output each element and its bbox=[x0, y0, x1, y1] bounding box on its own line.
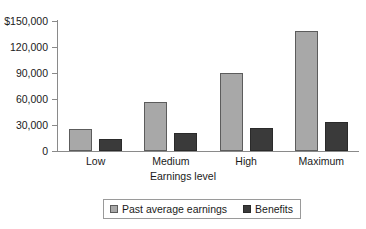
y-axis-tick bbox=[52, 151, 57, 152]
bar-low-benefits bbox=[99, 139, 122, 151]
bar-medium-benefits bbox=[174, 133, 197, 151]
legend-swatch-icon-past-average-earnings bbox=[110, 205, 118, 213]
x-axis-tick-label-high: High bbox=[209, 155, 284, 167]
y-axis-tick-label: 120,000 bbox=[0, 42, 48, 52]
bar-low-past-average-earnings bbox=[69, 129, 92, 151]
plot-area bbox=[58, 21, 359, 151]
bar-chart: 030,00060,00090,000120,000$150,000 LowMe… bbox=[0, 0, 366, 229]
legend-label-past-average-earnings: Past average earnings bbox=[122, 203, 227, 215]
y-axis-tick bbox=[52, 99, 57, 100]
bar-maximum-benefits bbox=[325, 122, 348, 151]
bar-group-low bbox=[58, 21, 133, 151]
y-axis-tick bbox=[52, 125, 57, 126]
chart-legend: Past average earnings Benefits bbox=[103, 199, 301, 219]
y-axis-tick-label: 60,000 bbox=[0, 94, 48, 104]
y-axis-tick-label: 0 bbox=[0, 146, 48, 156]
bar-high-past-average-earnings bbox=[220, 73, 243, 151]
y-axis-tick bbox=[52, 47, 57, 48]
y-axis-tick-label: 90,000 bbox=[0, 68, 48, 78]
x-axis-line bbox=[57, 151, 359, 152]
y-axis-tick-label: $150,000 bbox=[0, 16, 48, 26]
y-axis-tick bbox=[52, 73, 57, 74]
bar-high-benefits bbox=[250, 128, 273, 151]
x-axis-tick-label-medium: Medium bbox=[133, 155, 208, 167]
y-axis-tick-label: 30,000 bbox=[0, 120, 48, 130]
y-axis-tick bbox=[52, 21, 57, 22]
bar-maximum-past-average-earnings bbox=[295, 31, 318, 151]
bar-group-high bbox=[209, 21, 284, 151]
bar-group-maximum bbox=[284, 21, 359, 151]
legend-label-benefits: Benefits bbox=[255, 203, 293, 215]
legend-item-benefits: Benefits bbox=[243, 203, 293, 215]
bar-medium-past-average-earnings bbox=[144, 102, 167, 151]
legend-swatch-icon-benefits bbox=[243, 205, 251, 213]
x-axis-tick-label-maximum: Maximum bbox=[284, 155, 359, 167]
bar-group-medium bbox=[133, 21, 208, 151]
x-axis-tick-label-low: Low bbox=[58, 155, 133, 167]
x-axis-title: Earnings level bbox=[0, 170, 366, 182]
legend-item-past-average-earnings: Past average earnings bbox=[110, 203, 227, 215]
